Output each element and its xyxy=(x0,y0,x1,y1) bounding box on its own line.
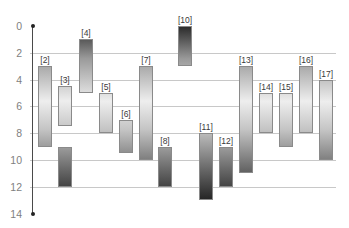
bar-label: [11] xyxy=(193,122,219,132)
range-bar xyxy=(319,80,333,160)
bar-label: [10] xyxy=(172,15,198,25)
y-tick-label: 4 xyxy=(0,74,22,86)
y-tick-label: 8 xyxy=(0,127,22,139)
range-bar xyxy=(299,66,313,133)
y-tick-label: 2 xyxy=(0,47,22,59)
bar-label: [12] xyxy=(213,136,239,146)
axis-end-marker xyxy=(31,24,35,28)
bar-label: [13] xyxy=(233,55,259,65)
range-bar xyxy=(199,133,213,200)
y-axis-line xyxy=(32,26,33,214)
floating-bar-chart: 02468101214[2][3][4][5][6][7][8][10][11]… xyxy=(0,0,349,228)
bar-label: [15] xyxy=(273,82,299,92)
bar-label: [16] xyxy=(293,55,319,65)
range-bar xyxy=(219,147,233,187)
bar-label: [7] xyxy=(133,55,159,65)
range-bar xyxy=(158,147,172,187)
y-tick-label: 0 xyxy=(0,20,22,32)
range-bar xyxy=(178,26,192,66)
range-bar xyxy=(279,93,293,147)
bar-label: [6] xyxy=(113,109,139,119)
bar-label: [2] xyxy=(32,55,58,65)
y-tick-label: 6 xyxy=(0,100,22,112)
range-bar xyxy=(139,66,153,160)
range-bar xyxy=(119,120,133,154)
range-bar xyxy=(259,93,273,133)
gridline xyxy=(30,160,336,161)
range-bar xyxy=(239,66,253,173)
bar-label: [3] xyxy=(52,75,78,85)
gridline xyxy=(30,187,336,188)
range-bar xyxy=(79,39,93,93)
y-tick-label: 14 xyxy=(0,208,22,220)
range-bar xyxy=(58,147,72,187)
range-bar xyxy=(99,93,113,133)
range-bar xyxy=(58,86,72,126)
bar-label: [17] xyxy=(313,69,339,79)
bar-label: [5] xyxy=(93,82,119,92)
y-tick-label: 10 xyxy=(0,154,22,166)
range-bar xyxy=(38,66,52,146)
bar-label: [4] xyxy=(73,28,99,38)
bar-label: [8] xyxy=(152,136,178,146)
axis-end-marker xyxy=(31,212,35,216)
y-tick-label: 12 xyxy=(0,181,22,193)
